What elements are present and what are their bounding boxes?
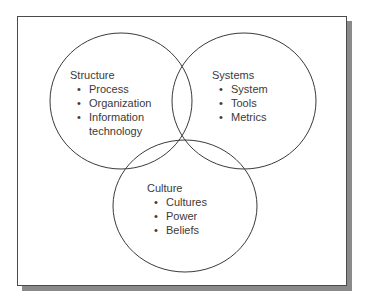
venn-diagram: [0, 0, 365, 300]
systems-title: Systems: [212, 68, 268, 82]
list-item: • Information technology: [77, 110, 159, 138]
structure-group: Structure • Process • Organization • Inf…: [70, 68, 159, 138]
list-item: • Organization: [77, 96, 159, 110]
list-item-label: Metrics: [231, 110, 268, 124]
structure-list: • Process • Organization • Information t…: [70, 82, 159, 138]
bullet-icon: •: [154, 195, 158, 209]
list-item-label: Information technology: [89, 110, 159, 138]
list-item-label: Power: [166, 209, 207, 223]
bullet-icon: •: [77, 110, 81, 124]
list-item-label: Tools: [231, 96, 268, 110]
structure-title: Structure: [70, 68, 159, 82]
culture-group: Culture • Cultures • Power • Beliefs: [147, 181, 207, 237]
bullet-icon: •: [154, 209, 158, 223]
list-item-label: Beliefs: [166, 223, 207, 237]
bullet-icon: •: [219, 110, 223, 124]
list-item: • Metrics: [219, 110, 268, 124]
bullet-icon: •: [154, 223, 158, 237]
list-item: • Beliefs: [154, 223, 207, 237]
culture-title: Culture: [147, 181, 207, 195]
culture-list: • Cultures • Power • Beliefs: [147, 195, 207, 237]
list-item: • Process: [77, 82, 159, 96]
bullet-icon: •: [77, 82, 81, 96]
list-item: • Power: [154, 209, 207, 223]
list-item: • System: [219, 82, 268, 96]
bullet-icon: •: [219, 82, 223, 96]
systems-group: Systems • System • Tools • Metrics: [212, 68, 268, 124]
systems-list: • System • Tools • Metrics: [212, 82, 268, 124]
list-item-label: Organization: [89, 96, 159, 110]
list-item-label: System: [231, 82, 268, 96]
bullet-icon: •: [219, 96, 223, 110]
list-item: • Cultures: [154, 195, 207, 209]
list-item-label: Cultures: [166, 195, 207, 209]
list-item-label: Process: [89, 82, 159, 96]
bullet-icon: •: [77, 96, 81, 110]
list-item: • Tools: [219, 96, 268, 110]
